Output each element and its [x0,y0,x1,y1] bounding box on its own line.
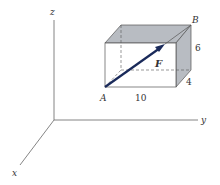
point-a-label: A [99,93,107,103]
force-label: F [154,58,163,69]
x-axis [20,120,54,165]
point-b-label: B [191,15,199,25]
y-axis-label: y [200,115,207,125]
x-axis-label: x [12,168,17,178]
vector-diagram: z y x F A B 10 6 4 [0,0,220,185]
height-label: 6 [195,43,201,53]
length-label: 10 [135,93,147,103]
depth-label: 4 [186,77,192,87]
z-axis-label: z [49,7,55,17]
